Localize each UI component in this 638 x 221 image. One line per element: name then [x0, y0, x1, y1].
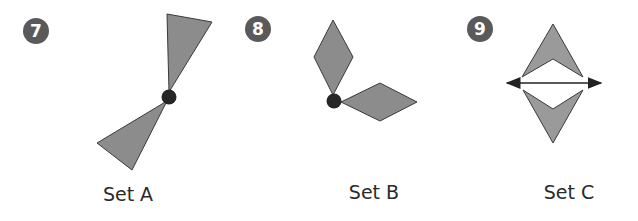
set-label: Set B	[349, 181, 399, 203]
rhombus-upper	[314, 20, 353, 95]
set-b-figure	[314, 20, 417, 121]
set-a-figure	[97, 14, 212, 170]
rhombus-right	[341, 83, 417, 121]
rotation-point	[327, 94, 342, 109]
triangle-upper	[167, 14, 212, 92]
problem-number-badge: 9	[467, 16, 493, 42]
arrowhead-upper	[522, 24, 583, 77]
arrowhead-lower	[523, 90, 583, 143]
problem-number-badge: 7	[23, 18, 49, 44]
triangle-lower	[97, 101, 167, 170]
set-c-figure	[507, 24, 601, 143]
problem-number-badge: 8	[245, 16, 271, 42]
figures-canvas	[0, 0, 638, 221]
rotation-point	[162, 90, 177, 105]
set-label: Set C	[544, 181, 595, 203]
set-label: Set A	[103, 183, 153, 205]
